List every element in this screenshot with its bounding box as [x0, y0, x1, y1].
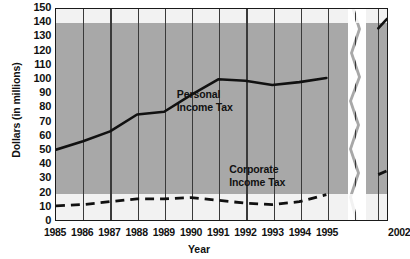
- y-tick-120: 120: [18, 45, 51, 56]
- series-lines: [56, 9, 387, 220]
- x-tick-1986: 1986: [71, 226, 93, 238]
- y-tick-130: 130: [18, 30, 51, 41]
- x-axis-tick-labels: 1985198619871988198919901991199219931994…: [0, 226, 398, 242]
- corporate-income-tax-line: [56, 195, 326, 206]
- y-tick-140: 140: [18, 16, 51, 27]
- personal-income-tax-label: Personal Income Tax: [177, 88, 233, 113]
- y-tick-70: 70: [18, 116, 51, 127]
- y-tick-150: 150: [18, 2, 51, 13]
- x-tick-2002: 2002: [388, 226, 410, 238]
- x-tick-1989: 1989: [153, 226, 175, 238]
- corporate-income-tax-line-2002: [378, 171, 387, 175]
- x-tick-1987: 1987: [98, 226, 120, 238]
- y-tick-110: 110: [18, 59, 51, 70]
- personal-income-tax-line-2002: [378, 19, 387, 29]
- corporate-label-line2: Income Tax: [229, 176, 285, 188]
- x-tick-1990: 1990: [180, 226, 202, 238]
- y-tick-40: 40: [18, 158, 51, 169]
- y-tick-80: 80: [18, 101, 51, 112]
- y-tick-20: 20: [18, 187, 51, 198]
- plot-area: Personal Income Tax Corporate Income Tax: [55, 8, 388, 221]
- x-tick-1993: 1993: [262, 226, 284, 238]
- x-tick-1995: 1995: [316, 226, 338, 238]
- y-tick-0: 0: [18, 215, 51, 226]
- y-tick-90: 90: [18, 87, 51, 98]
- personal-label-line2: Income Tax: [177, 101, 233, 113]
- x-tick-1994: 1994: [289, 226, 311, 238]
- y-axis-tick-labels: 1501401301201101009080706050403020100: [18, 0, 51, 223]
- personal-label-line1: Personal: [177, 88, 221, 100]
- y-tick-50: 50: [18, 144, 51, 155]
- y-tick-10: 10: [18, 201, 51, 212]
- y-tick-60: 60: [18, 130, 51, 141]
- x-axis-title: Year: [0, 243, 398, 255]
- x-tick-1985: 1985: [44, 226, 66, 238]
- x-tick-1992: 1992: [234, 226, 256, 238]
- corporate-label-line1: Corporate: [229, 163, 278, 175]
- x-tick-1991: 1991: [207, 226, 229, 238]
- corporate-income-tax-label: Corporate Income Tax: [229, 163, 285, 188]
- x-tick-1988: 1988: [126, 226, 148, 238]
- axis-break-zigzag: [348, 8, 366, 221]
- y-tick-100: 100: [18, 73, 51, 84]
- y-tick-30: 30: [18, 172, 51, 183]
